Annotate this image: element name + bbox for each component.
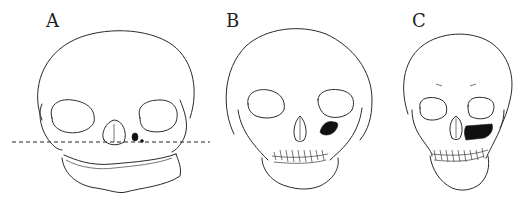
skull-a-cranium	[38, 31, 195, 120]
skull-a-maxillary-sinus	[132, 133, 138, 141]
skull-c-cranium	[404, 34, 512, 128]
skull-b-teeth	[272, 150, 328, 163]
skull-b-maxillary-sinus	[320, 121, 338, 135]
skull-a-cheek-right	[172, 100, 187, 152]
skull-comparison-figure: A B	[0, 0, 525, 201]
panel-label-b: B	[226, 10, 239, 31]
skull-b-orbit-left	[248, 90, 285, 118]
skull-a-jaw	[64, 154, 176, 164]
panel-a: A	[12, 10, 210, 193]
skull-b-cranium	[226, 29, 372, 140]
skull-c-orbit-right	[468, 97, 494, 119]
panel-label-a: A	[45, 10, 60, 31]
skull-a-orbit-left	[51, 100, 94, 133]
skull-c-teeth	[432, 148, 488, 162]
panel-c: C	[404, 10, 512, 190]
skull-b-orbit-right	[318, 89, 354, 117]
skull-b-jaw	[262, 158, 338, 189]
skull-c-orbit-left	[420, 97, 447, 120]
skull-c-maxillary-sinus	[465, 124, 493, 140]
skull-a-orbit-right	[139, 100, 177, 132]
panel-label-c: C	[412, 10, 426, 31]
panel-b: B	[226, 10, 372, 189]
